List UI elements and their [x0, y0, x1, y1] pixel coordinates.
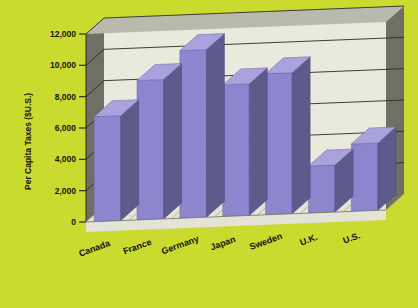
bar-front-face — [266, 73, 293, 215]
bar-side-face — [206, 34, 224, 218]
y-tick-label: 0 — [71, 217, 76, 227]
bar-germany — [180, 34, 225, 219]
y-tick-label: 6,000 — [55, 123, 77, 133]
bar-front-face — [223, 84, 250, 217]
bar-japan — [223, 68, 268, 217]
bar-chart-figure: 12,00010,0008,0006,0004,0002,0000 Per Ca… — [0, 0, 418, 308]
bar-side-face — [249, 68, 267, 216]
bar-front-face — [137, 79, 164, 219]
bar-front-face — [94, 116, 121, 222]
y-tick-label: 12,000 — [50, 29, 76, 39]
bar-side-face — [121, 100, 139, 221]
bar-sweden — [266, 57, 311, 215]
bar-france — [137, 63, 182, 219]
bar-side-face — [164, 63, 182, 218]
bar-canada — [94, 100, 139, 222]
y-tick-label: 8,000 — [55, 92, 77, 102]
bar-front-face — [180, 50, 207, 219]
bar-front-face — [308, 165, 335, 213]
y-tick-label: 2,000 — [55, 186, 77, 196]
chart-canvas: 12,00010,0008,0006,0004,0002,0000 Per Ca… — [0, 0, 418, 308]
y-tick-label: 4,000 — [55, 154, 77, 164]
y-tick-label: 10,000 — [50, 60, 76, 70]
y-axis-title: Per Capita Taxes ($U.S.) — [23, 93, 33, 190]
bar-side-face — [292, 57, 310, 214]
